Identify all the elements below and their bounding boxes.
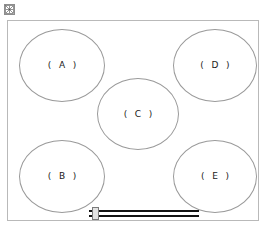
burner-zone-d[interactable]: ( D ) [173,29,257,102]
burner-label-d: ( D ) [198,61,232,70]
burner-label-a: ( A ) [45,61,78,70]
burner-zone-c[interactable]: ( C ) [97,78,179,150]
diagram-canvas: ( A ) ( B ) ( C ) ( D ) ( E ) [0,0,267,228]
slider-track[interactable] [89,210,199,217]
burner-label-e: ( E ) [199,172,232,181]
burner-label-b: ( B ) [45,172,78,181]
burner-zone-a[interactable]: ( A ) [19,29,105,102]
broken-image-icon [4,4,15,15]
slider-handle[interactable] [92,207,99,220]
burner-zone-e[interactable]: ( E ) [173,140,257,213]
cooktop-surface: ( A ) ( B ) ( C ) ( D ) ( E ) [7,20,259,221]
burner-zone-b[interactable]: ( B ) [19,140,105,213]
burner-label-c: ( C ) [121,110,154,119]
slider-control[interactable] [89,207,199,220]
